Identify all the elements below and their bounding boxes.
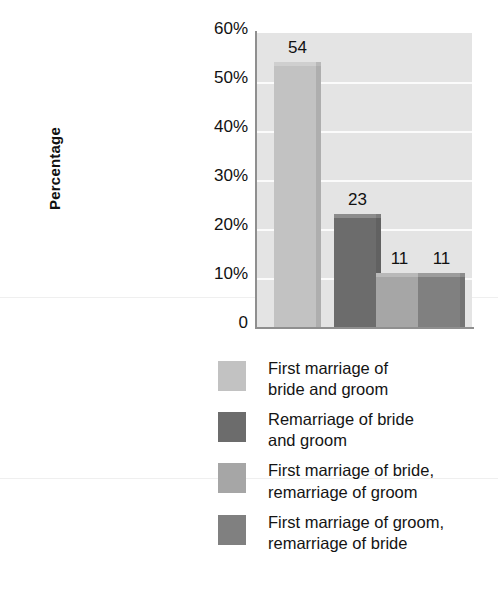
bar-first-marriage-bride-and-groom[interactable]: 54 xyxy=(274,62,321,327)
legend-swatch-icon xyxy=(218,515,246,545)
bar-fill xyxy=(418,273,465,327)
bar-top-highlight xyxy=(418,273,465,277)
y-tick-50: 50% xyxy=(186,69,248,86)
bar-first-marriage-bride-remarriage-groom[interactable]: 11 xyxy=(376,273,423,327)
bar-value-label: 23 xyxy=(334,191,381,210)
legend-item[interactable]: Remarriage of bride and groom xyxy=(218,409,498,451)
y-tick-20: 20% xyxy=(186,216,248,233)
legend-item-label: Remarriage of bride and groom xyxy=(268,409,414,451)
y-axis-tick-labels: 60% 50% 40% 30% 20% 10% 0 xyxy=(186,20,248,340)
plot-area: 54 23 11 11 xyxy=(257,33,472,327)
legend-swatch-icon xyxy=(218,463,246,493)
legend-swatch-icon xyxy=(218,361,246,391)
legend-item[interactable]: First marriage of bride and groom xyxy=(218,358,498,400)
bar-top-highlight xyxy=(334,214,381,218)
bar-top-highlight xyxy=(376,273,423,277)
legend-item-label: First marriage of bride and groom xyxy=(268,358,388,400)
x-axis-baseline xyxy=(255,327,474,329)
bar-right-shade xyxy=(460,273,465,327)
bar-chart: Percentage 60% 50% 40% 30% 20% 10% 0 54 … xyxy=(0,0,498,345)
legend-item-label: First marriage of bride, remarriage of g… xyxy=(268,460,434,502)
legend-swatch-icon xyxy=(218,412,246,442)
bar-value-label: 11 xyxy=(418,250,465,269)
bar-value-label: 11 xyxy=(376,250,423,269)
y-tick-30: 30% xyxy=(186,167,248,184)
y-axis-title: Percentage xyxy=(46,69,63,269)
bar-first-marriage-groom-remarriage-bride[interactable]: 11 xyxy=(418,273,465,327)
y-tick-40: 40% xyxy=(186,118,248,135)
chart-legend: First marriage of bride and groom Remarr… xyxy=(218,358,498,563)
y-tick-60: 60% xyxy=(186,20,248,37)
legend-item[interactable]: First marriage of groom, remarriage of b… xyxy=(218,512,498,554)
bar-fill xyxy=(376,273,423,327)
y-tick-10: 10% xyxy=(186,265,248,282)
y-axis-line xyxy=(255,31,257,329)
bar-top-highlight xyxy=(274,62,321,66)
legend-item[interactable]: First marriage of bride, remarriage of g… xyxy=(218,460,498,502)
y-tick-0: 0 xyxy=(186,314,248,331)
legend-item-label: First marriage of groom, remarriage of b… xyxy=(268,512,444,554)
bar-fill xyxy=(334,214,381,327)
bar-right-shade xyxy=(316,62,321,327)
bar-remarriage-bride-and-groom[interactable]: 23 xyxy=(334,214,381,327)
bar-fill xyxy=(274,62,321,327)
bar-value-label: 54 xyxy=(274,39,321,58)
